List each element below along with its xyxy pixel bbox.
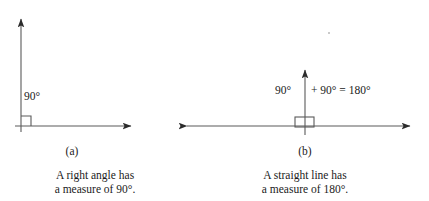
figure-a-caption-line-2: a measure of 90°. <box>20 182 170 196</box>
figure-b-equation-term-left: 90° <box>275 85 291 97</box>
diagram-page: 90° (a) A right angle has a measure of 9… <box>0 0 429 201</box>
figure-a-sub-label: (a) <box>52 146 92 158</box>
figure-a-angle-label: 90° <box>24 91 40 103</box>
figure-a-caption: A right angle has a measure of 90°. <box>20 168 170 196</box>
figure-a-right-angle-square-icon <box>21 116 31 126</box>
figure-b-straight-line: 90° + 90° = 180° (b) A straight line has… <box>170 0 429 201</box>
scan-speck <box>328 32 330 34</box>
figure-b-equation-term-right: + 90° = 180° <box>311 85 371 97</box>
figure-b-caption-line-1: A straight line has <box>230 168 380 182</box>
figure-b-caption-line-2: a measure of 180°. <box>230 182 380 196</box>
figure-a-caption-line-1: A right angle has <box>20 168 170 182</box>
figure-b-sub-label: (b) <box>285 146 325 158</box>
figure-b-caption: A straight line has a measure of 180°. <box>230 168 380 196</box>
